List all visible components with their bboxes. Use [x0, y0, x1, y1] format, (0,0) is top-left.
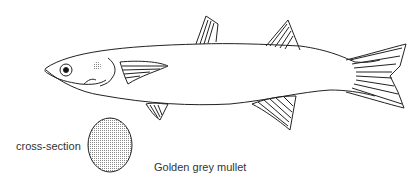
- cross-section-shape: [88, 118, 132, 172]
- fish-illustration: [0, 0, 419, 183]
- cross-section-label: cross-section: [16, 140, 81, 152]
- species-label: Golden grey mullet: [154, 161, 246, 173]
- body-ventral-line: [46, 70, 375, 105]
